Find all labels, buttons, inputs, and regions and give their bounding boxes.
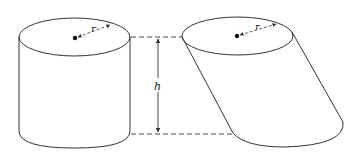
oblique-cylinder-center-dot: [235, 34, 239, 38]
right-cylinder-radius-label: r: [91, 23, 97, 34]
oblique-cylinder-right-side: [292, 32, 343, 122]
height-label: h: [154, 80, 161, 93]
right-cylinder-center-dot: [73, 36, 77, 40]
oblique-cylinder: [182, 17, 343, 147]
height-dimension: [131, 37, 234, 134]
cylinders-diagram: r h r: [0, 0, 361, 156]
right-cylinder-bottom: [19, 131, 130, 148]
oblique-cylinder-radius-label: r: [255, 21, 261, 32]
oblique-cylinder-left-side: [182, 37, 233, 133]
oblique-cylinder-bottom: [233, 122, 343, 147]
